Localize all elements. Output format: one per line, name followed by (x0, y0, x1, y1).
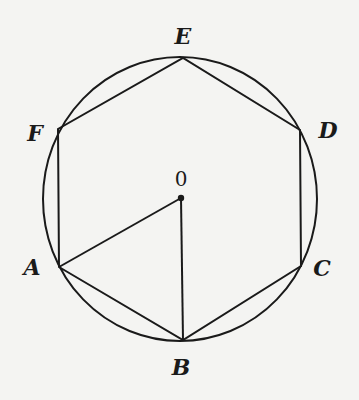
vertex-label-c: C (313, 255, 331, 281)
center-point (178, 195, 184, 201)
center-label: 0 (175, 167, 188, 191)
hexagon-circle-diagram: 0 A B C D E F (0, 0, 359, 400)
vertex-label-a: A (21, 254, 40, 280)
vertex-label-d: D (317, 117, 337, 143)
vertex-label-f: F (26, 120, 44, 146)
segment-oa (59, 198, 181, 267)
segment-ob (181, 198, 183, 340)
vertex-label-e: E (174, 23, 193, 49)
vertex-label-b: B (171, 354, 191, 380)
